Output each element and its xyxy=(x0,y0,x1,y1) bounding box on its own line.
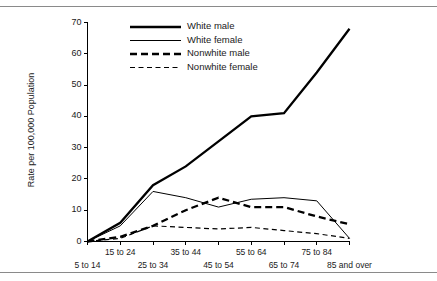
legend-label-white-male: White male xyxy=(187,21,235,31)
x-tick-label: 35 to 44 xyxy=(151,248,221,257)
y-tick-label: 20 xyxy=(42,174,82,183)
y-tick-label: 70 xyxy=(42,18,82,27)
y-tick-label: 50 xyxy=(42,80,82,89)
y-tick-label: 10 xyxy=(42,205,82,214)
legend-label-white-female: White female xyxy=(187,35,242,45)
x-tick-label: 65 to 74 xyxy=(249,261,319,270)
x-tick-label: 45 to 54 xyxy=(184,261,254,270)
x-tick-label: 85 and over xyxy=(315,261,385,270)
x-tick-label: 25 to 34 xyxy=(118,261,188,270)
x-tick-label: 15 to 24 xyxy=(85,248,155,257)
legend-label-nonwhite-female: Nonwhite female xyxy=(187,62,258,72)
y-tick-label: 40 xyxy=(42,111,82,120)
legend-swatches xyxy=(130,27,181,68)
x-tick-label: 75 to 84 xyxy=(282,248,352,257)
chart-figure: Rate per 100,000 Population 706050403020… xyxy=(0,0,437,281)
x-tick-label: 5 to 14 xyxy=(53,261,123,270)
series-line-nonwhite-female xyxy=(88,226,350,242)
y-axis-title: Rate per 100,000 Population xyxy=(26,50,36,210)
y-tick-label: 0 xyxy=(42,237,82,246)
y-tick-label: 60 xyxy=(42,49,82,58)
legend-label-nonwhite-male: Nonwhite male xyxy=(187,48,250,58)
x-tick-label: 55 to 64 xyxy=(216,248,286,257)
y-tick-label: 30 xyxy=(42,143,82,152)
